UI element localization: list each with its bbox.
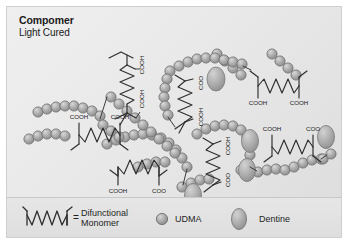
monomer-5-label-coo: COO xyxy=(224,173,231,187)
dentine-oval xyxy=(239,159,256,182)
monomer-2 xyxy=(175,75,193,133)
monomer-5 xyxy=(203,138,221,192)
udma-chain xyxy=(267,49,301,80)
legend-label-difunctional-monomer: Difunctional Monomer xyxy=(81,208,128,229)
monomer-2-label-coo: COO xyxy=(197,76,204,90)
monomer-4-label-cooh-right: COOH xyxy=(111,113,130,120)
network-svg: COOH COOH COO COOH xyxy=(7,7,342,197)
figure-legend: = Difunctional Monomer UDMA xyxy=(7,197,342,238)
legend-label-udma: UDMA xyxy=(175,214,202,224)
legend-equals-1: = xyxy=(73,212,79,223)
monomer-1-label-cooh-lower: COOH xyxy=(138,90,145,109)
polymer-network-diagram: COOH COOH COO COOH xyxy=(7,7,342,197)
monomer-3-label-cooh-right: COOH xyxy=(290,99,309,106)
udma-chain xyxy=(24,129,70,144)
monomer-7-label-cooh: COOH xyxy=(109,187,128,194)
monomer-5-label-cooh: COOH xyxy=(224,137,231,156)
dentine-oval-icon xyxy=(229,206,251,234)
legend-label-dentine: Dentine xyxy=(259,214,290,224)
monomer-2-label-cooh: COOH xyxy=(197,108,204,127)
monomer-1-label-cooh-upper: COOH xyxy=(138,56,145,75)
udma-bead-icon xyxy=(155,212,171,228)
monomer-7-label-coo: COO xyxy=(152,187,166,194)
dentine-oval xyxy=(207,67,225,91)
monomer-3-label-cooh-left: COOH xyxy=(249,99,268,106)
dentine-oval xyxy=(242,130,259,153)
monomer-4-label-cooh-left: COOH xyxy=(70,113,89,120)
monomer-6-label-coo: COO xyxy=(306,125,320,132)
udma-chain-group xyxy=(24,49,336,192)
udma-chain xyxy=(159,74,173,120)
monomer-6-label-cooh: COOH xyxy=(263,125,282,132)
figure-panel: Compomer Light Cured xyxy=(6,6,342,238)
compomer-light-cured-figure: Compomer Light Cured xyxy=(0,0,348,244)
